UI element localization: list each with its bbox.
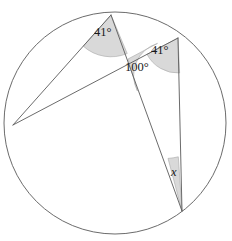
angle-label-unknown-x: x [171, 166, 177, 179]
geometry-figure: 41° 41° 100° x [0, 0, 232, 241]
angle-label-top: 41° [94, 26, 112, 39]
angle-label-upper-right: 41° [151, 44, 169, 57]
angle-label-intersection: 100° [125, 61, 149, 74]
geometry-canvas [0, 0, 232, 241]
